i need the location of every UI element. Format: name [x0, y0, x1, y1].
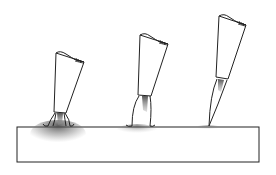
brush-medium-pressure: [126, 34, 168, 127]
bristle-ink: [142, 96, 148, 112]
brush-handle: [216, 16, 246, 79]
brush-pressure-diagram: [0, 0, 276, 175]
brush-heavy-pressure: [43, 52, 84, 127]
bristles-bent: [126, 96, 155, 126]
brush-light-pressure: [209, 15, 246, 126]
ink-spread-light: [194, 125, 222, 131]
diagram-canvas: [0, 0, 276, 175]
